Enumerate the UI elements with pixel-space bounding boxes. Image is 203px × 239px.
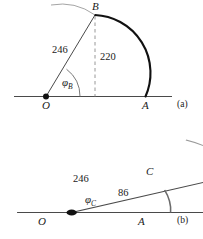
thin-arc-extension-a <box>51 4 95 15</box>
dimension-label-86: 86 <box>118 188 129 199</box>
angle-arc-phi-c <box>165 190 171 213</box>
figure-root: B O A 246 220 φB (a) C O A <box>0 0 203 239</box>
panel-b-drawing <box>0 120 203 239</box>
panel-a-tag: (a) <box>177 100 188 110</box>
angle-label-phi-c: φC <box>85 194 96 208</box>
point-label-a-a: A <box>142 100 149 111</box>
panel-b-tag: (b) <box>177 216 188 226</box>
point-label-c: C <box>146 166 153 177</box>
point-label-b: B <box>92 1 99 12</box>
phi-subscript-c: C <box>91 199 96 208</box>
diagram-panel-b: C O A 246 86 φC (b) <box>0 120 203 239</box>
point-label-o-b: O <box>38 216 46 227</box>
point-label-o-a: O <box>42 100 50 111</box>
dimension-label-220: 220 <box>100 52 116 63</box>
pivot-dot-o-b <box>67 210 77 216</box>
phi-subscript-b: B <box>68 82 73 91</box>
thin-arc-extension-b <box>186 140 203 174</box>
angle-label-phi-b: φB <box>62 77 73 91</box>
point-label-a-b: A <box>138 216 145 227</box>
diagram-panel-a: B O A 246 220 φB (a) <box>0 0 203 120</box>
dimension-label-246-b: 246 <box>73 174 89 185</box>
dimension-label-246-a: 246 <box>52 45 68 56</box>
